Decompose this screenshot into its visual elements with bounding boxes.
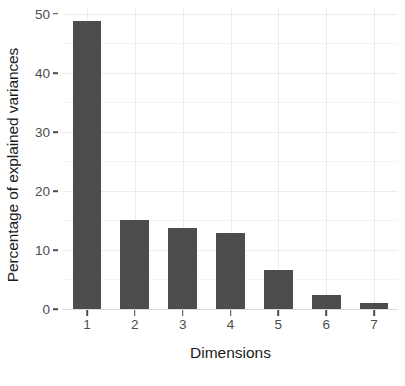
y-axis-tick-mark (53, 190, 58, 192)
x-axis-tick-label: 4 (227, 317, 235, 332)
x-axis-tick-label: 5 (275, 317, 283, 332)
y-axis-tick-label: 40 (35, 65, 50, 80)
bar-dimension-5[interactable] (264, 270, 293, 309)
x-axis-tick-mark-group (63, 309, 398, 317)
bar-dimension-3[interactable] (168, 228, 197, 309)
y-axis-tick-mark (53, 72, 58, 74)
y-axis-title: Percentage of explained variances (0, 0, 26, 330)
x-axis-tick-label: 7 (370, 317, 378, 332)
y-axis-tick-label: 30 (35, 124, 50, 139)
x-axis-tick-label: 1 (83, 317, 91, 332)
scree-plot-chart: Percentage of explained variances 010203… (0, 0, 405, 386)
y-axis-tick-label: 10 (35, 242, 50, 257)
y-axis-tick-mark (53, 13, 58, 15)
y-axis-tick-group: 01020304050 (26, 0, 58, 330)
x-axis-tick-label: 6 (322, 317, 330, 332)
x-axis-title: Dimensions (63, 344, 398, 362)
y-axis-tick-label: 20 (35, 183, 50, 198)
bar-dimension-2[interactable] (120, 220, 149, 309)
plot-panel (63, 8, 398, 309)
y-axis-tick-mark (53, 308, 58, 310)
x-axis-tick-mark (182, 310, 184, 316)
bar-dimension-1[interactable] (73, 21, 102, 309)
bar-dimension-4[interactable] (216, 233, 245, 309)
x-axis-tick-label: 3 (179, 317, 187, 332)
x-axis-tick-mark (373, 310, 375, 316)
y-axis-title-text: Percentage of explained variances (4, 48, 22, 283)
y-axis-tick-label: 0 (42, 302, 50, 317)
x-axis-tick-mark (325, 310, 327, 316)
gridline-major-vertical (278, 8, 279, 309)
x-axis-tick-mark (278, 310, 280, 316)
x-axis-tick-label-group: 1234567 (63, 317, 398, 339)
x-axis-tick-mark (230, 310, 232, 316)
y-axis-tick-mark (53, 249, 58, 251)
x-axis-tick-label: 2 (131, 317, 139, 332)
gridline-major-vertical (374, 8, 375, 309)
bar-dimension-6[interactable] (312, 295, 341, 309)
gridline-major-vertical (326, 8, 327, 309)
x-axis-tick-mark (86, 310, 88, 316)
y-axis-tick-label: 50 (35, 6, 50, 21)
y-axis-tick-mark (53, 131, 58, 133)
x-axis-tick-mark (134, 310, 136, 316)
